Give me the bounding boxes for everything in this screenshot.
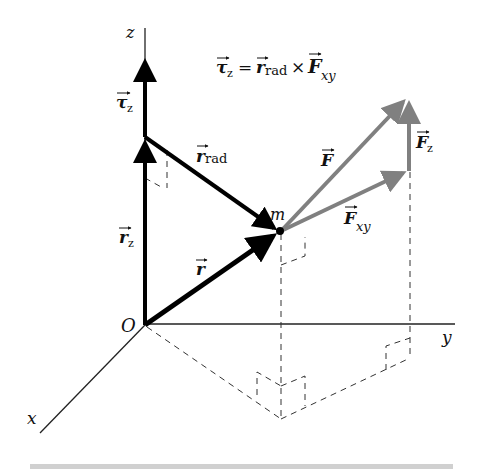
position-vectors: [145, 62, 274, 325]
label-r-rad: r rad: [196, 146, 227, 166]
mass-label: m: [270, 205, 285, 224]
svg-text:z: z: [127, 102, 133, 115]
x-axis-label: x: [27, 408, 37, 428]
svg-text:xy: xy: [321, 68, 336, 83]
y-axis-label: y: [441, 327, 452, 347]
bottom-rule: [30, 464, 453, 469]
torque-diagram: z y x O m τ z r z r rad r: [0, 0, 480, 475]
vector-r: [145, 236, 273, 325]
x-axis: [40, 325, 145, 433]
svg-text:=: =: [238, 57, 252, 77]
vector-F: [281, 102, 403, 231]
svg-text:rad: rad: [205, 151, 227, 166]
torque-equation: τ z = r rad × F xy: [216, 54, 336, 83]
svg-text:F: F: [320, 150, 335, 170]
svg-text:rad: rad: [265, 63, 287, 78]
svg-text:z: z: [128, 237, 134, 250]
mass-point: [276, 227, 284, 235]
label-F-xy: F xy: [343, 207, 371, 234]
z-axis-label: z: [125, 23, 135, 42]
svg-text:xy: xy: [356, 219, 371, 234]
label-r-z: r z: [119, 227, 134, 250]
svg-text:r: r: [196, 259, 206, 279]
label-tau-z: τ z: [116, 92, 133, 115]
label-F-z: F z: [415, 132, 433, 155]
labels: z y x O m τ z r z r rad r: [27, 23, 452, 428]
vector-F-xy: [281, 173, 403, 231]
label-r: r: [196, 259, 207, 279]
label-F: F: [320, 150, 335, 170]
svg-text:z: z: [227, 67, 233, 80]
origin-label: O: [121, 315, 136, 336]
svg-text:×: ×: [291, 57, 305, 77]
svg-text:z: z: [427, 142, 433, 155]
axes: [40, 28, 455, 433]
